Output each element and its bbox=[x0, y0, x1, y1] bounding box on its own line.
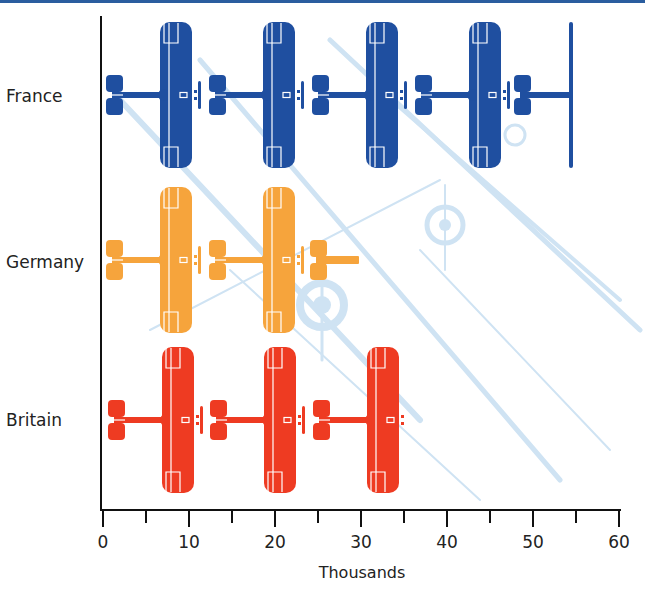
tick-50 bbox=[532, 511, 534, 527]
tick-15 bbox=[231, 511, 233, 523]
tick-40 bbox=[446, 511, 448, 527]
tick-45 bbox=[489, 511, 491, 523]
tick-0 bbox=[102, 511, 104, 527]
bar-france bbox=[106, 22, 573, 168]
tick-35 bbox=[403, 511, 405, 523]
tick-label-10: 10 bbox=[178, 532, 200, 552]
tick-10 bbox=[188, 511, 190, 527]
tick-label-60: 60 bbox=[608, 532, 630, 552]
pictogram-bars bbox=[0, 0, 645, 595]
tick-label-50: 50 bbox=[522, 532, 544, 552]
tick-30 bbox=[360, 511, 362, 527]
tick-label-20: 20 bbox=[264, 532, 286, 552]
y-axis bbox=[100, 16, 102, 511]
x-axis-title: Thousands bbox=[319, 563, 406, 582]
tick-20 bbox=[274, 511, 276, 527]
tick-label-40: 40 bbox=[436, 532, 458, 552]
bar-britain bbox=[108, 347, 408, 493]
tick-25 bbox=[317, 511, 319, 523]
bar-germany bbox=[106, 187, 359, 333]
tick-60 bbox=[618, 511, 620, 527]
tick-label-0: 0 bbox=[98, 532, 109, 552]
tick-5 bbox=[145, 511, 147, 523]
tick-55 bbox=[575, 511, 577, 523]
tick-label-30: 30 bbox=[350, 532, 372, 552]
